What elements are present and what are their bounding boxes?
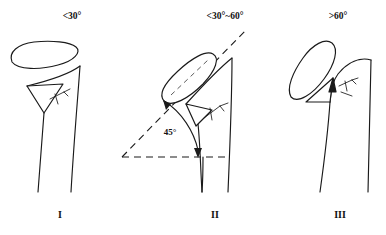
panel-1-group: <30° I [11,11,81,220]
panel-2-shaft-left-cortex-lower [202,157,203,192]
panel-3-group: >60° III [289,11,371,220]
panel-3-shaft-left-cortex [320,102,330,192]
panel-3-roman-numeral: III [334,209,346,220]
panel-1-roman-numeral: I [58,209,62,220]
panel-2-angle-label: <30°~60° [207,11,244,21]
panel-3-shaft-right-cortex [368,60,371,192]
panel-1-angle-label: <30° [63,11,82,21]
panel-1-bone-fragment [11,41,78,68]
panel-2-roman-numeral: II [211,209,219,220]
panel-3-suture-marks [339,78,358,96]
diagram-canvas: <30° I <30°~60° [0,0,386,235]
panel-2-group: <30°~60° [122,11,245,220]
figure-root: <30° I <30°~60° [0,0,386,235]
panel-1-shaft-left-cortex [38,113,44,192]
panel-2-bone-fragment [162,53,217,103]
panel-2-angle-value: 45° [164,127,177,137]
panel-1-shaft-right-cortex [71,66,80,192]
panel-3-angle-label: >60° [329,11,348,21]
panel-1-fracture-wedge [27,84,63,113]
panel-2-shaft-right-cortex [228,58,232,192]
